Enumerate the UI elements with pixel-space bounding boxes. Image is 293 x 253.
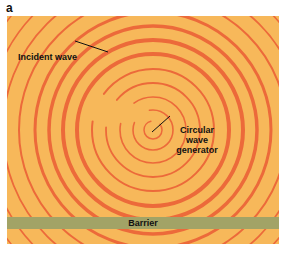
generator-label-line2: wave bbox=[175, 135, 219, 145]
generator-label-line1: Circular bbox=[175, 125, 219, 135]
incident-wave-label: Incident wave bbox=[18, 52, 77, 62]
generator-pointer bbox=[152, 116, 170, 132]
panel-letter: a bbox=[6, 1, 13, 15]
incident-wave-pointer bbox=[75, 41, 108, 52]
barrier: Barrier bbox=[7, 217, 279, 229]
generator-label-line3: generator bbox=[175, 145, 219, 155]
wave-diagram-panel: Incident wave Circular wave generator Ba… bbox=[7, 16, 279, 244]
circular-wave-generator-label: Circular wave generator bbox=[175, 125, 219, 155]
barrier-label: Barrier bbox=[7, 217, 279, 229]
concentric-waves bbox=[7, 16, 279, 244]
